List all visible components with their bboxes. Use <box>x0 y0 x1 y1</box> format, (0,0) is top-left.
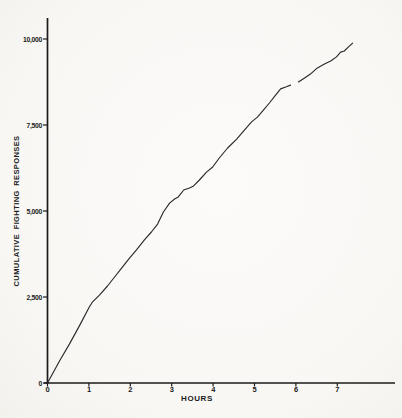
y-axis-title: CUMULATIVE FIGHTING RESPONSES <box>13 136 21 287</box>
x-tick-label: 2 <box>123 386 137 394</box>
x-tick-label: 3 <box>165 386 179 394</box>
y-tick-label: 0 <box>4 380 42 388</box>
x-tick-label: 1 <box>82 386 96 394</box>
y-tick-label: 5,000 <box>4 208 42 216</box>
x-tick-label: 6 <box>289 386 303 394</box>
x-tick-label: 4 <box>206 386 220 394</box>
cumulative-response-curve <box>298 43 352 82</box>
x-tick-label: 0 <box>41 386 55 394</box>
x-axis-title: HOURS <box>157 395 237 403</box>
cumulative-record-figure: 02,5005,0007,50010,00001234567 HOURS CUM… <box>0 0 402 418</box>
y-tick-label: 7,500 <box>4 122 42 130</box>
x-tick-label: 5 <box>248 386 262 394</box>
y-tick-label: 10,000 <box>4 36 42 44</box>
cumulative-response-curve <box>48 85 291 383</box>
x-tick-label: 7 <box>330 386 344 394</box>
y-tick-label: 2,500 <box>4 294 42 302</box>
chart-canvas <box>0 0 402 418</box>
